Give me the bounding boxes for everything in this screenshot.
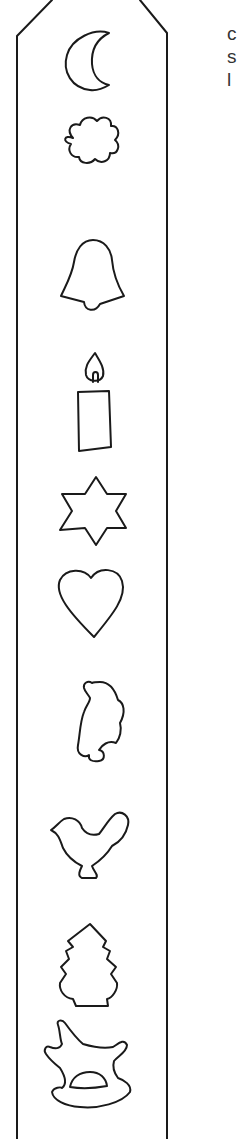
angel-icon	[78, 682, 124, 761]
fir-tree-icon	[60, 924, 117, 1006]
rocking-horse-icon	[45, 1021, 131, 1108]
star-icon	[60, 477, 126, 545]
crescent-moon-icon	[66, 32, 109, 90]
template-strip	[0, 0, 243, 1139]
strip-outline	[17, 0, 167, 1139]
heart-icon	[59, 570, 123, 637]
bell-icon	[61, 240, 124, 310]
bird-icon	[51, 813, 128, 878]
cloud-icon	[65, 118, 118, 163]
candle-icon	[78, 353, 111, 451]
